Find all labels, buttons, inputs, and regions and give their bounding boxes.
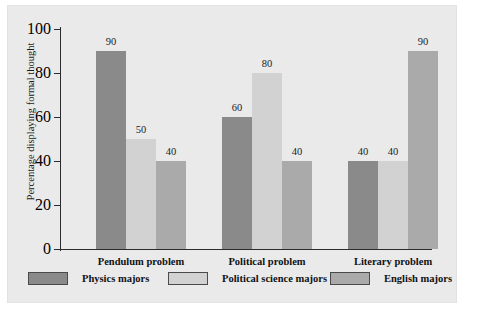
bar[interactable]: 40 <box>378 161 408 249</box>
x-axis-category-label: Political problem <box>222 256 312 267</box>
legend-swatch-icon <box>330 272 370 285</box>
bar-value-label: 40 <box>388 146 399 157</box>
bar-group: 608040 <box>222 29 312 249</box>
x-axis-category-label: Literary problem <box>348 256 438 267</box>
x-axis-line <box>60 249 432 250</box>
bar[interactable]: 60 <box>222 117 252 249</box>
bar[interactable]: 40 <box>156 161 186 249</box>
x-axis-category-label: Pendulum problem <box>96 256 186 267</box>
y-axis-title: Percentage displaying formal thought <box>25 17 36 227</box>
y-axis-tick-label: 0 <box>18 240 51 258</box>
bar-value-label: 60 <box>232 102 243 113</box>
legend-label: English majors <box>384 273 452 284</box>
bar[interactable]: 90 <box>408 51 438 249</box>
chart-screenshot: 020406080100 Percentage displaying forma… <box>0 0 477 313</box>
plot-area: 905040608040404090 <box>60 29 416 249</box>
bar-value-label: 40 <box>166 146 177 157</box>
bar-value-label: 90 <box>106 36 117 47</box>
chart-legend: Physics majorsPolitical science majorsEn… <box>8 272 456 298</box>
bar-group: 905040 <box>96 29 186 249</box>
figure-panel: 020406080100 Percentage displaying forma… <box>8 6 456 302</box>
bar-value-label: 50 <box>136 124 147 135</box>
legend-swatch-icon <box>168 272 208 285</box>
bar-group: 404090 <box>348 29 438 249</box>
legend-item[interactable]: Political science majors <box>168 272 327 285</box>
legend-label: Physics majors <box>82 273 149 284</box>
legend-swatch-icon <box>28 272 68 285</box>
y-axis-tick <box>54 249 60 250</box>
legend-label: Political science majors <box>222 273 327 284</box>
bar-value-label: 40 <box>292 146 303 157</box>
bar[interactable]: 80 <box>252 73 282 249</box>
bar-value-label: 90 <box>418 36 429 47</box>
bar[interactable]: 40 <box>348 161 378 249</box>
bar[interactable]: 50 <box>126 139 156 249</box>
bar-value-label: 80 <box>262 58 273 69</box>
bar-value-label: 40 <box>358 146 369 157</box>
bar[interactable]: 40 <box>282 161 312 249</box>
legend-item[interactable]: English majors <box>330 272 452 285</box>
legend-item[interactable]: Physics majors <box>28 272 149 285</box>
bar[interactable]: 90 <box>96 51 126 249</box>
